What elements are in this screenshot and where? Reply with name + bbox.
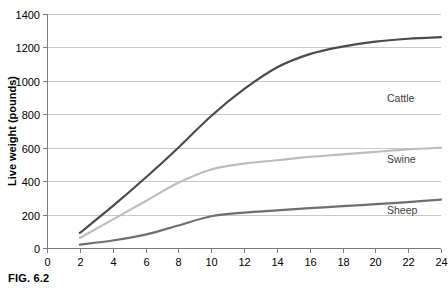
- y-tick-label: 1400: [16, 9, 40, 21]
- y-tick-label: 1000: [16, 76, 40, 88]
- x-tick-label: 12: [238, 256, 250, 268]
- growth-curve-line-chart: 0200400600800100012001400 02468101214161…: [0, 0, 448, 270]
- y-tick-label: 200: [22, 210, 40, 222]
- series-label-sheep: Sheep: [387, 204, 418, 216]
- y-axis-ticks: [43, 15, 47, 249]
- y-tick-label: 1200: [16, 42, 40, 54]
- series-label-swine: Swine: [387, 153, 416, 165]
- x-tick-label: 22: [402, 256, 414, 268]
- y-axis-tick-labels: 0200400600800100012001400: [16, 9, 40, 255]
- y-axis-title: Live weight (pounds): [6, 76, 18, 186]
- x-tick-label: 8: [175, 256, 181, 268]
- y-tick-label: 0: [34, 243, 40, 255]
- x-tick-label: 18: [337, 256, 349, 268]
- x-tick-label: 0: [44, 256, 50, 268]
- x-axis-tick-labels: 024681012141618202224: [44, 256, 447, 268]
- figure-caption: FIG. 6.2: [8, 272, 49, 284]
- series-inline-labels: CattleSwineSheep: [387, 92, 418, 216]
- x-tick-label: 20: [369, 256, 381, 268]
- x-tick-label: 16: [304, 256, 316, 268]
- y-tick-label: 800: [22, 109, 40, 121]
- x-axis-ticks: [48, 249, 442, 253]
- series-label-cattle: Cattle: [387, 92, 415, 104]
- x-tick-label: 4: [110, 256, 116, 268]
- figure-container: 0200400600800100012001400 02468101214161…: [0, 0, 448, 300]
- gridlines: [47, 15, 441, 216]
- x-tick-label: 14: [271, 256, 283, 268]
- y-tick-label: 400: [22, 176, 40, 188]
- x-tick-label: 2: [77, 256, 83, 268]
- x-tick-label: 6: [143, 256, 149, 268]
- x-tick-label: 24: [435, 256, 447, 268]
- chart-plot-area: 0200400600800100012001400 02468101214161…: [0, 0, 448, 270]
- x-tick-label: 10: [205, 256, 217, 268]
- y-tick-label: 600: [22, 143, 40, 155]
